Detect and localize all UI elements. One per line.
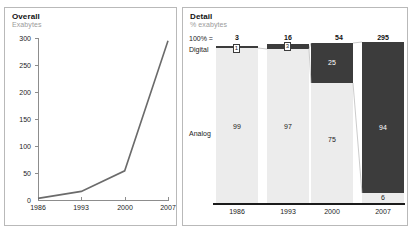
detail-baseline [213, 203, 405, 205]
detail-xtick-label-1993: 1993 [266, 208, 310, 215]
overall-line-series [5, 8, 178, 227]
panel-detail: Detail % exabytes 100% = Digital Analog … [182, 7, 408, 226]
segment-connector-bands [183, 8, 409, 227]
detail-xtick-label-2000: 2000 [310, 208, 354, 215]
detail-xtick-label-2007: 2007 [361, 208, 405, 215]
detail-xtick-label-1986: 1986 [215, 208, 259, 215]
panel-overall: Overall Exabytes 300 250 200 150 100 50 … [4, 7, 177, 226]
